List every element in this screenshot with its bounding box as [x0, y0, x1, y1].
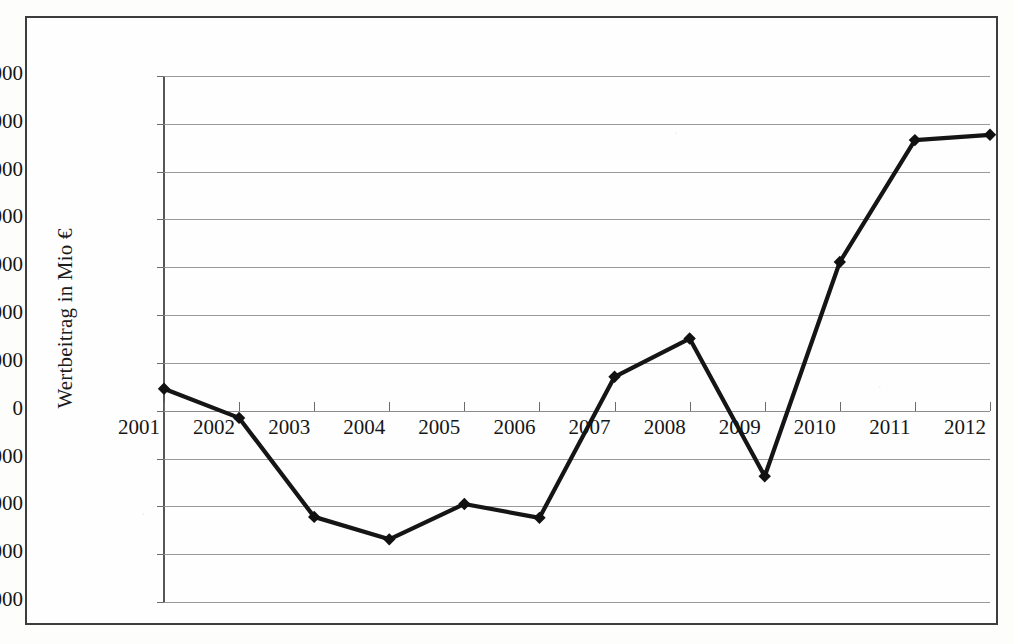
plot-area — [164, 76, 990, 602]
y-axis-title: Wertbeitrag in Mio € — [53, 189, 78, 449]
y-tick-label: -1.000 — [0, 444, 23, 469]
y-tick-label: 3.000 — [0, 252, 23, 277]
y-tick-mark — [157, 506, 164, 507]
data-point-marker — [158, 383, 170, 395]
line-series-wertbeitrag — [164, 76, 990, 602]
data-point-marker — [984, 129, 996, 141]
y-tick-label: -4.000 — [0, 587, 23, 612]
gridline — [164, 602, 990, 603]
y-tick-label: 1.000 — [0, 348, 23, 373]
y-tick-mark — [157, 459, 164, 460]
y-tick-mark — [157, 219, 164, 220]
x-tick-mark — [990, 402, 991, 411]
y-tick-label: -2.000 — [0, 491, 23, 516]
y-tick-mark — [157, 602, 164, 603]
y-tick-mark — [157, 554, 164, 555]
series-line — [164, 135, 990, 540]
y-tick-label: 6.000 — [0, 109, 23, 134]
y-tick-label: 5.000 — [0, 157, 23, 182]
y-tick-mark — [157, 363, 164, 364]
y-tick-label: 2.000 — [0, 300, 23, 325]
y-tick-label: 4.000 — [0, 204, 23, 229]
y-tick-mark — [157, 172, 164, 173]
y-tick-mark — [157, 76, 164, 77]
y-tick-mark — [157, 411, 164, 412]
y-tick-label: 7.000 — [0, 61, 23, 86]
x-tick-label: 2012 — [920, 415, 1010, 440]
y-tick-label: -3.000 — [0, 539, 23, 564]
y-tick-mark — [157, 267, 164, 268]
chart-figure: Wertbeitrag in Mio € 7.0006.0005.0004.00… — [0, 0, 1013, 644]
y-tick-label: 0 — [0, 396, 23, 421]
chart-outer-frame: Wertbeitrag in Mio € 7.0006.0005.0004.00… — [25, 16, 998, 625]
series-layer — [164, 76, 990, 602]
y-tick-mark — [157, 315, 164, 316]
y-tick-mark — [157, 124, 164, 125]
